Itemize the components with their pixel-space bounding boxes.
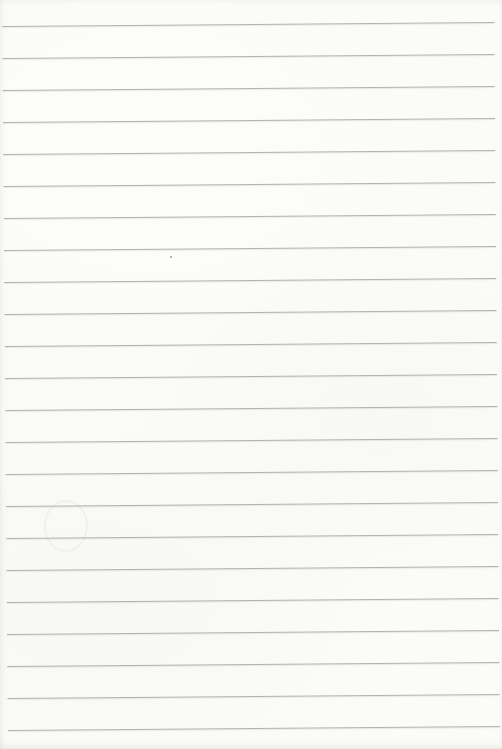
ruled-line (7, 566, 499, 571)
ruled-lines (0, 0, 502, 749)
notebook-page (0, 0, 502, 749)
show-through-ghost-mark (44, 500, 88, 552)
ruled-line (7, 598, 499, 603)
ruled-line (7, 662, 499, 667)
ruled-line (5, 342, 497, 347)
ruled-line (3, 118, 495, 123)
ruled-line (4, 246, 496, 251)
ruled-line (4, 214, 496, 219)
ruled-line (2, 22, 494, 27)
ruled-line (3, 86, 495, 91)
ruled-line (4, 182, 496, 187)
ruled-line (5, 374, 497, 379)
ruled-line (8, 726, 500, 731)
ruled-line (4, 278, 496, 283)
ruled-line (6, 438, 498, 443)
ruled-line (5, 406, 497, 411)
ruled-line (7, 630, 499, 635)
ruled-line (3, 150, 495, 155)
ruled-line (5, 310, 497, 315)
paper-speck (170, 256, 172, 258)
ruled-line (8, 694, 500, 699)
ruled-line (6, 470, 498, 475)
ruled-line (3, 54, 495, 59)
